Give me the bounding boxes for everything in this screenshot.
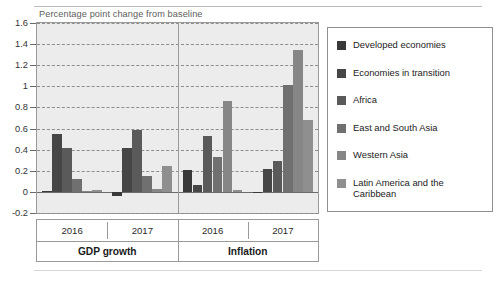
category-year-label: 2017 xyxy=(107,220,177,241)
y-axis-label: 0.2 xyxy=(0,166,28,176)
y-axis-label: 0 xyxy=(0,187,28,197)
legend-item[interactable]: Developed economies xyxy=(337,39,446,51)
y-axis-tick xyxy=(30,23,36,24)
legend-item[interactable]: East and South Asia xyxy=(337,122,437,134)
y-axis-label: 1.2 xyxy=(0,60,28,70)
y-axis-label: 1.4 xyxy=(0,39,28,49)
year-separator xyxy=(248,222,249,239)
y-axis-tick xyxy=(30,192,36,193)
legend-label: Economies in transition xyxy=(353,67,450,79)
legend-swatch-icon xyxy=(337,41,346,50)
legend-label: Developed economies xyxy=(353,39,446,51)
y-axis-label: 1.6 xyxy=(0,18,28,28)
y-axis-tick xyxy=(30,107,36,108)
group-separator xyxy=(178,220,179,261)
y-axis-label: 0.4 xyxy=(0,145,28,155)
category-group-label: Inflation xyxy=(178,241,319,262)
legend-swatch-icon xyxy=(337,69,346,78)
category-year-label: 2016 xyxy=(37,220,107,241)
legend-item[interactable]: Latin America and the Caribbean xyxy=(337,177,444,200)
legend-swatch-icon xyxy=(337,124,346,133)
chart-legend: Developed economiesEconomies in transiti… xyxy=(327,27,493,212)
legend-label: East and South Asia xyxy=(353,122,437,134)
y-axis-tick xyxy=(30,65,36,66)
y-axis-label: 0.6 xyxy=(0,124,28,134)
category-year-label: 2017 xyxy=(248,220,318,241)
y-axis-label: -0.2 xyxy=(0,208,28,218)
legend-label: Latin America and the Caribbean xyxy=(353,177,444,200)
y-axis-tick xyxy=(30,171,36,172)
y-axis-tick xyxy=(30,44,36,45)
year-separator xyxy=(107,222,108,239)
y-axis-tick xyxy=(30,150,36,151)
legend-label: Western Asia xyxy=(353,149,408,161)
legend-item[interactable]: Economies in transition xyxy=(337,67,450,79)
y-axis-tick xyxy=(30,213,36,214)
y-axis-tick xyxy=(30,129,36,130)
y-axis-tick xyxy=(30,86,36,87)
category-group-label: GDP growth xyxy=(37,241,178,262)
category-axis: 20162017GDP growth20162017Inflation xyxy=(36,219,319,262)
y-axis-label: 0.8 xyxy=(0,102,28,112)
category-year-label: 2016 xyxy=(178,220,248,241)
legend-swatch-icon xyxy=(337,179,346,188)
legend-item[interactable]: Africa xyxy=(337,94,377,106)
legend-item[interactable]: Western Asia xyxy=(337,149,408,161)
y-axis-label: 1 xyxy=(0,81,28,91)
legend-swatch-icon xyxy=(337,96,346,105)
bottom-divider xyxy=(34,270,482,271)
legend-swatch-icon xyxy=(337,151,346,160)
chart-figure: Percentage point change from baseline 1.… xyxy=(0,0,500,281)
legend-label: Africa xyxy=(353,94,377,106)
